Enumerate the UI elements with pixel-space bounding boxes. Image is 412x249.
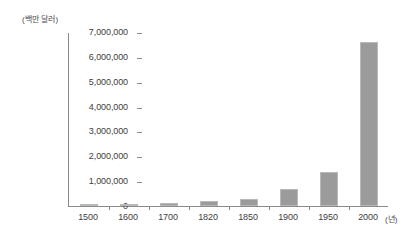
y-axis-tick-label: 5,000,000 [89, 77, 128, 87]
y-axis-tick-mark [137, 108, 142, 109]
y-axis-tick-mark [137, 58, 142, 59]
y-axis-tick-mark [137, 182, 142, 183]
y-axis-tick-label: 3,000,000 [89, 126, 128, 136]
x-axis-tick-label: 2000 [348, 212, 388, 222]
y-axis-tick-label: 7,000,000 [89, 27, 128, 37]
x-axis-tick-label: 1820 [188, 212, 228, 222]
bar [320, 172, 338, 206]
x-axis-tick-mark [109, 206, 110, 210]
x-axis-tick-mark [349, 206, 350, 210]
bar [160, 203, 178, 206]
y-axis-tick-label: 4,000,000 [89, 102, 128, 112]
x-axis-tick-label: 1850 [228, 212, 268, 222]
y-axis-tick-label: 6,000,000 [89, 52, 128, 62]
x-axis-tick-label: 1900 [268, 212, 308, 222]
plot-area: 01,000,0002,000,0003,000,0004,000,0005,0… [68, 33, 388, 207]
x-axis-tick-label: 1500 [68, 212, 108, 222]
y-axis-tick-label: 1,000,000 [89, 176, 128, 186]
y-axis-tick-mark [137, 157, 142, 158]
bar [80, 204, 98, 206]
x-axis-tick-label: 1950 [308, 212, 348, 222]
bar-chart-figure: (백만 달러) 01,000,0002,000,0003,000,0004,00… [0, 0, 412, 249]
bar [120, 204, 138, 206]
x-axis-unit-label: (년) [385, 213, 397, 224]
x-axis-tick-label: 1700 [148, 212, 188, 222]
y-axis-tick-mark [137, 83, 142, 84]
y-axis-tick-mark [137, 33, 142, 34]
x-axis-tick-label: 1600 [108, 212, 148, 222]
bar [280, 189, 298, 206]
bar [200, 201, 218, 206]
x-axis-tick-mark [309, 206, 310, 210]
y-axis-tick-label: 2,000,000 [89, 151, 128, 161]
x-axis-tick-mark [229, 206, 230, 210]
y-axis-tick-label: 0 [123, 201, 128, 211]
y-axis-unit-label: (백만 달러) [22, 13, 58, 24]
y-axis-tick-mark [137, 132, 142, 133]
x-axis-tick-mark [269, 206, 270, 210]
x-axis-tick-mark [189, 206, 190, 210]
bar [240, 199, 258, 206]
bar [360, 42, 378, 206]
x-axis-tick-mark [149, 206, 150, 210]
